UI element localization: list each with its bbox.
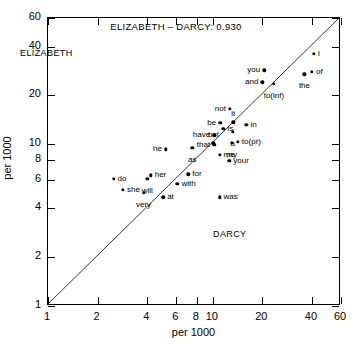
data-point — [303, 72, 306, 75]
x-tick-1 — [48, 297, 49, 304]
data-point — [236, 140, 239, 143]
point-label: and — [245, 78, 258, 86]
y-tick-right-6 — [332, 180, 339, 181]
point-label: as — [188, 156, 196, 164]
x-tick-8 — [197, 297, 198, 304]
y-tick-right-10 — [332, 144, 339, 145]
data-point — [187, 173, 190, 176]
x-tick-60 — [341, 297, 342, 304]
y-tick-1 — [48, 306, 55, 307]
annotation-elizabeth: ELIZABETH — [20, 48, 73, 58]
y-tick-8 — [48, 160, 55, 161]
x-tick-4 — [147, 297, 148, 304]
x-ticklabel-10: 10 — [192, 311, 232, 322]
data-point — [112, 177, 115, 180]
point-label: she — [127, 186, 140, 194]
x-ticklabel-60: 60 — [320, 311, 352, 322]
point-label: very — [136, 201, 151, 209]
data-point — [161, 195, 164, 198]
y-tick-right-2 — [332, 257, 339, 258]
y-tick-right-4 — [332, 208, 339, 209]
chart-title: ELIZABETH – DARCY: 0.930 — [0, 21, 352, 32]
data-point — [176, 182, 179, 185]
point-label: for — [192, 170, 201, 178]
y-tick-10 — [48, 144, 55, 145]
x-tick-2 — [98, 297, 99, 304]
y-tick-right-1 — [332, 306, 339, 307]
y-tick-right-60 — [332, 18, 339, 19]
y-tick-6 — [48, 180, 55, 181]
point-label: with — [181, 180, 195, 188]
data-point — [262, 69, 265, 72]
point-label: I — [318, 50, 320, 58]
point-label: her — [155, 171, 167, 179]
y-tick-right-20 — [332, 95, 339, 96]
point-label: not — [215, 105, 226, 113]
x-ticklabel-2: 2 — [77, 311, 117, 322]
y-axis-title: per 1000 — [1, 118, 13, 198]
point-label: be — [207, 119, 216, 127]
scatter-plot-figure: Iyouoftheandto(inf)notitbeinisahavebutth… — [0, 0, 352, 344]
x-tick-10 — [213, 297, 214, 304]
point-label: of — [316, 68, 323, 76]
data-point — [121, 188, 124, 191]
y-tick-20 — [48, 95, 55, 96]
y-tick-2 — [48, 257, 55, 258]
x-ticklabel-1: 1 — [27, 311, 67, 322]
plot-inner-clip: Iyouoftheandto(inf)notitbeinisahavebutth… — [48, 18, 339, 304]
data-point — [218, 195, 221, 198]
point-label: do — [118, 175, 127, 183]
data-point — [219, 121, 222, 124]
point-label: in — [250, 121, 256, 129]
point-label: at — [167, 193, 174, 201]
point-label: he — [153, 145, 162, 153]
y-ticklabel-20: 20 — [3, 88, 41, 99]
point-label: it — [231, 110, 235, 118]
data-point — [312, 52, 315, 55]
point-label: you — [247, 66, 260, 74]
x-ticklabel-20: 20 — [241, 311, 281, 322]
data-point — [231, 130, 234, 133]
y-tick-right-40 — [332, 47, 339, 48]
point-label: to(pr) — [242, 138, 261, 146]
data-point — [149, 174, 152, 177]
point-label: your — [233, 157, 249, 165]
x-tick-6 — [176, 297, 177, 304]
annotation-darcy: DARCY — [213, 229, 247, 239]
data-point — [272, 82, 275, 85]
data-point — [164, 147, 167, 150]
y-tick-60 — [48, 18, 55, 19]
data-point — [261, 81, 264, 84]
y-ticklabel-2: 2 — [3, 250, 41, 261]
data-point — [212, 143, 215, 146]
y-ticklabel-4: 4 — [3, 201, 41, 212]
y-ticklabel-1: 1 — [3, 299, 41, 310]
data-point — [245, 123, 248, 126]
data-point — [190, 146, 193, 149]
x-tick-20 — [262, 297, 263, 304]
y-tick-4 — [48, 208, 55, 209]
plot-area: Iyouoftheandto(inf)notitbeinisahavebutth… — [47, 17, 340, 305]
point-label: was — [224, 193, 238, 201]
data-point — [146, 177, 149, 180]
data-point — [228, 159, 231, 162]
y-tick-right-8 — [332, 160, 339, 161]
point-label: to(inf) — [264, 92, 284, 100]
data-point — [310, 70, 313, 73]
point-label: that — [197, 141, 210, 149]
point-label: but — [208, 131, 219, 139]
data-point — [218, 153, 221, 156]
point-label: the — [299, 82, 310, 90]
x-axis-title: per 1000 — [47, 326, 340, 338]
data-point — [222, 127, 225, 130]
x-tick-40 — [312, 297, 313, 304]
